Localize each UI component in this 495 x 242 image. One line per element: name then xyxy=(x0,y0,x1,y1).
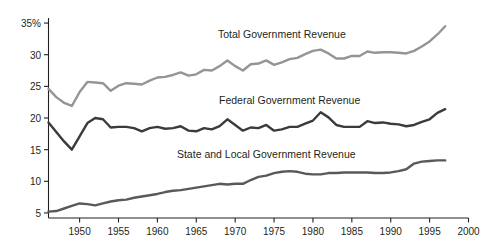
x-tick-label: 1990 xyxy=(380,226,402,237)
y-tick-label: 5 xyxy=(6,207,41,218)
x-tick-label: 1980 xyxy=(302,226,324,237)
x-tick-label: 1985 xyxy=(341,226,363,237)
series-line xyxy=(49,109,446,150)
y-tick-label: 30 xyxy=(6,49,41,60)
series-label: Total Government Revenue xyxy=(218,28,346,40)
x-tick-label: 1975 xyxy=(263,226,285,237)
y-tick-label: 20 xyxy=(6,113,41,124)
y-tick-label: 25 xyxy=(6,81,41,92)
x-tick-label: 1955 xyxy=(107,226,129,237)
series-label: Federal Government Revenue xyxy=(219,94,360,106)
x-tick-label: 1960 xyxy=(146,226,168,237)
x-tick-label: 1950 xyxy=(68,226,90,237)
series-line xyxy=(49,160,446,211)
x-tick-label: 1995 xyxy=(418,226,440,237)
x-tick-label: 1965 xyxy=(185,226,207,237)
x-tick-label: 1970 xyxy=(224,226,246,237)
y-tick-label: 15 xyxy=(6,144,41,155)
revenue-line-chart: 5101520253035%19501955196019651970197519… xyxy=(0,0,495,242)
y-tick-label: 35% xyxy=(6,18,41,29)
series-label: State and Local Government Revenue xyxy=(177,148,356,160)
x-tick-label: 2000 xyxy=(457,226,479,237)
y-tick-label: 10 xyxy=(6,176,41,187)
